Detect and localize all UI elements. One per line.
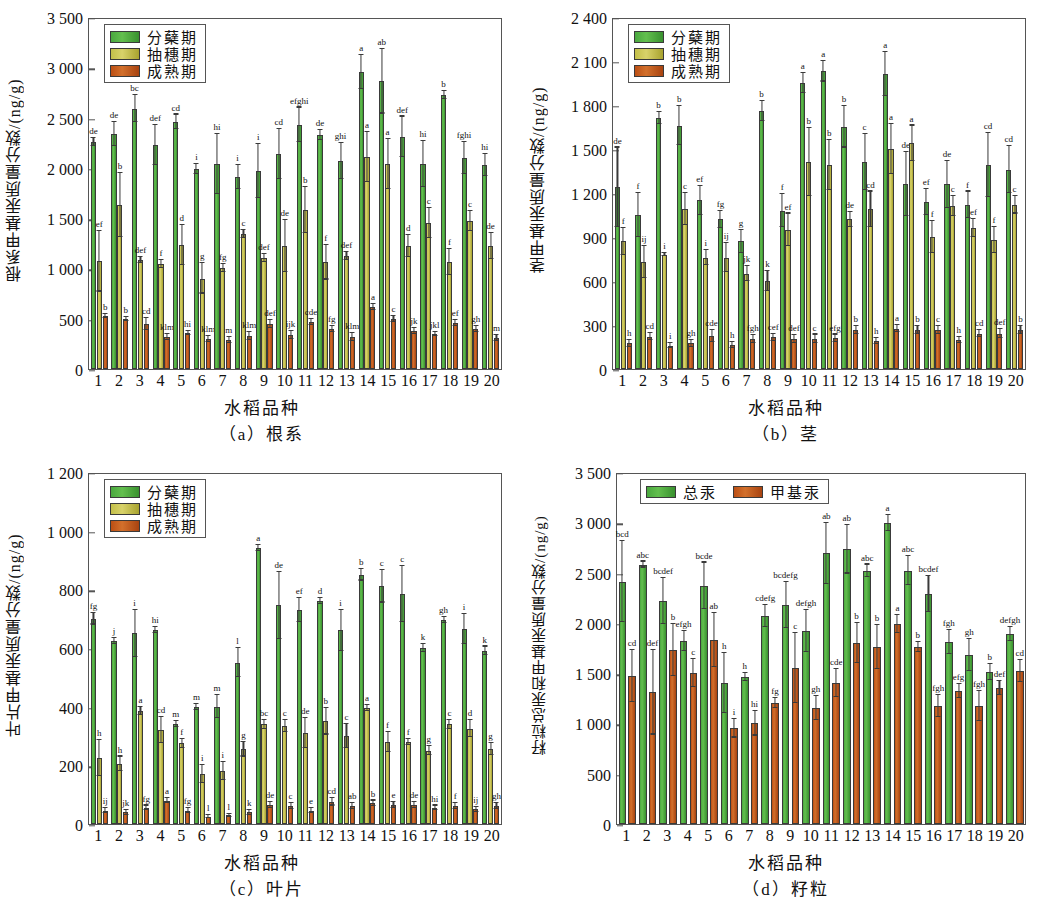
bar-second[interactable]: fgh — [975, 706, 983, 824]
bar-second[interactable]: a — [385, 164, 390, 369]
bar-first[interactable]: i — [132, 633, 137, 824]
bar-first[interactable]: de — [276, 605, 281, 824]
bar-third[interactable]: cd — [647, 337, 652, 369]
bar-second[interactable]: cde — [832, 683, 840, 824]
bar-third[interactable]: cd — [977, 334, 982, 369]
bar-third[interactable]: b — [1018, 330, 1023, 369]
bar-first[interactable]: efghi — [297, 125, 302, 369]
bar-first[interactable]: hi — [214, 164, 219, 369]
bar-first[interactable]: m — [173, 724, 178, 824]
bar-second[interactable]: f — [621, 241, 626, 369]
bar-second[interactable]: b — [806, 162, 811, 369]
bar-first[interactable]: bcdef — [925, 594, 933, 824]
bar-second[interactable]: hi — [751, 723, 759, 824]
bar-second[interactable]: f — [406, 742, 411, 824]
bar-second[interactable]: fg — [220, 268, 225, 369]
bar-second[interactable]: gh — [812, 708, 820, 824]
bar-first[interactable]: c — [379, 586, 384, 824]
bar-third[interactable]: a — [894, 329, 899, 369]
bar-third[interactable]: efg — [833, 338, 838, 369]
bar-first[interactable]: de — [317, 135, 322, 369]
bar-second[interactable]: c — [426, 223, 431, 369]
bar-third[interactable]: ab — [350, 806, 355, 824]
bar-third[interactable]: ef — [453, 323, 458, 369]
bar-second[interactable]: c — [344, 736, 349, 824]
bar-third[interactable]: ij — [473, 809, 478, 824]
bar-first[interactable]: hi — [420, 164, 425, 369]
bar-second[interactable]: i — [703, 258, 708, 369]
bar-first[interactable]: i — [256, 171, 261, 369]
bar-first[interactable]: b — [986, 672, 994, 824]
bar-second[interactable]: fg — [771, 703, 779, 824]
bar-first[interactable]: a — [821, 71, 826, 369]
bar-third[interactable]: cde — [709, 336, 714, 369]
bar-second[interactable]: def — [649, 692, 657, 824]
bar-first[interactable]: gh — [441, 620, 446, 824]
bar-first[interactable]: de — [903, 184, 908, 369]
bar-first[interactable]: k — [482, 651, 487, 824]
bar-first[interactable]: ef — [924, 202, 929, 369]
bar-second[interactable]: jk — [744, 274, 749, 369]
bar-second[interactable]: h — [117, 764, 122, 824]
bar-third[interactable]: hi — [185, 333, 190, 369]
bar-second[interactable]: d — [467, 729, 472, 824]
bar-first[interactable]: f — [780, 211, 785, 369]
bar-second[interactable]: f — [158, 264, 163, 369]
bar-third[interactable]: ijk — [288, 335, 293, 369]
bar-third[interactable]: l — [226, 815, 231, 824]
bar-first[interactable]: abc — [904, 571, 912, 824]
bar-first[interactable]: b — [656, 118, 661, 369]
bar-first[interactable]: ghi — [338, 161, 343, 369]
bar-third[interactable]: klm — [247, 336, 252, 369]
bar-second[interactable]: a — [909, 143, 914, 369]
bar-third[interactable]: def — [997, 334, 1002, 369]
bar-third[interactable]: b — [103, 316, 108, 369]
bar-second[interactable]: c — [690, 673, 698, 824]
bar-first[interactable]: de — [91, 142, 96, 369]
bar-second[interactable]: def — [344, 256, 349, 369]
bar-second[interactable]: f — [179, 743, 184, 824]
bar-second[interactable]: def — [996, 688, 1004, 824]
bar-second[interactable]: fgh — [934, 706, 942, 824]
bar-third[interactable]: c — [391, 319, 396, 369]
bar-second[interactable]: f — [385, 742, 390, 824]
bar-second[interactable]: ab — [710, 640, 718, 824]
bar-second[interactable]: ij — [641, 262, 646, 369]
bar-first[interactable]: de — [944, 184, 949, 369]
bar-first[interactable]: def — [400, 137, 405, 369]
bar-first[interactable]: hi — [482, 165, 487, 369]
bar-third[interactable]: klm — [206, 339, 211, 369]
bar-second[interactable]: i — [662, 255, 667, 369]
bar-second[interactable]: a — [364, 708, 369, 824]
bar-third[interactable]: cef — [771, 337, 776, 369]
bar-second[interactable]: cd — [158, 730, 163, 824]
bar-first[interactable]: hi — [153, 630, 158, 824]
bar-third[interactable]: h — [730, 345, 735, 369]
bar-second[interactable]: a — [364, 157, 369, 369]
bar-second[interactable]: f — [930, 237, 935, 369]
bar-first[interactable]: l — [235, 663, 240, 824]
bar-second[interactable]: c — [467, 221, 472, 369]
bar-first[interactable]: ab — [379, 81, 384, 369]
bar-first[interactable]: def — [153, 145, 158, 369]
bar-second[interactable]: b — [303, 210, 308, 369]
bar-first[interactable]: b — [759, 111, 764, 369]
bar-third[interactable]: jk — [123, 812, 128, 824]
bar-second[interactable]: i — [220, 771, 225, 824]
bar-third[interactable]: fg — [144, 808, 149, 824]
bar-first[interactable]: efgh — [680, 641, 688, 824]
bar-second[interactable]: g — [241, 749, 246, 824]
bar-third[interactable]: ij — [103, 811, 108, 824]
bar-first[interactable]: f — [965, 205, 970, 369]
bar-third[interactable]: de — [267, 805, 272, 824]
bar-third[interactable]: def — [791, 339, 796, 369]
bar-second[interactable]: c — [950, 206, 955, 369]
bar-second[interactable]: cd — [628, 676, 636, 824]
bar-first[interactable]: cdefg — [761, 616, 769, 824]
bar-third[interactable]: h — [627, 343, 632, 369]
bar-third[interactable]: cd — [144, 324, 149, 369]
bar-second[interactable]: ef — [97, 261, 102, 369]
bar-first[interactable]: h — [721, 683, 729, 824]
bar-first[interactable]: m — [194, 707, 199, 824]
bar-second[interactable]: b — [323, 721, 328, 824]
